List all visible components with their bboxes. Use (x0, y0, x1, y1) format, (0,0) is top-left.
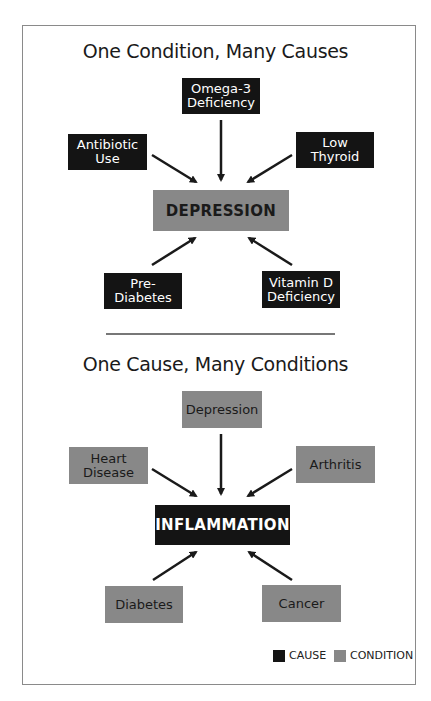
arrow-vitamind-to-depression (249, 238, 292, 265)
legend-condition: CONDITION (334, 649, 413, 662)
arrow-antibiotic-to-depression (152, 155, 196, 182)
condition-swatch (334, 650, 346, 662)
legend-cause: CAUSE (273, 649, 326, 662)
arrow-cancer-to-inflammation (249, 552, 292, 580)
legend-cause-label: CAUSE (289, 649, 326, 662)
cause-swatch (273, 650, 285, 662)
arrow-heart-to-inflammation (152, 469, 196, 496)
arrow-arthritis-to-inflammation (248, 469, 292, 496)
legend-condition-label: CONDITION (350, 649, 413, 662)
arrow-diabetes-to-inflammation (153, 552, 196, 580)
arrows (0, 0, 431, 701)
arrow-thyroid-to-depression (248, 155, 292, 182)
arrow-prediabetes-to-depression (152, 238, 195, 265)
